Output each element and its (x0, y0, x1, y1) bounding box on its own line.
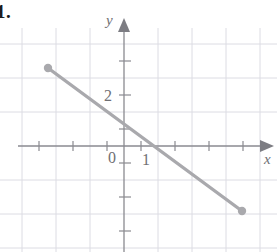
vertical-gridlines (22, 28, 260, 252)
y-axis (118, 18, 130, 252)
y-axis-label: y (106, 13, 113, 28)
x-tick-label-1: 1 (142, 152, 150, 168)
line-endpoint-right (238, 207, 246, 215)
plotted-line-segment (44, 64, 246, 215)
line-endpoint-left (44, 64, 52, 72)
coordinate-plane-graph (0, 0, 277, 252)
y-tick-label-2: 2 (104, 88, 112, 104)
origin-label: 0 (108, 150, 116, 166)
x-axis-label: x (264, 152, 271, 167)
